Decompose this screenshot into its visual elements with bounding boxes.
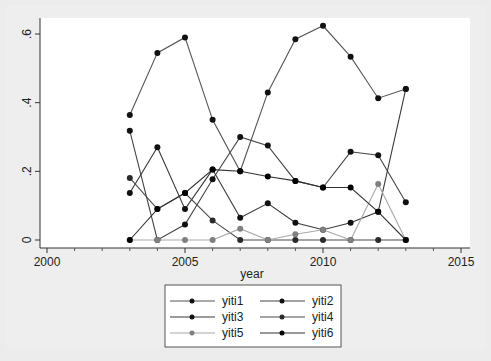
data-point-yiti6 xyxy=(375,209,381,215)
y-tick-label: .6 xyxy=(20,29,34,39)
y-tick-label: .2 xyxy=(20,166,34,176)
plot-area xyxy=(40,18,470,248)
data-point-yiti5 xyxy=(154,237,160,243)
legend-label: yiti2 xyxy=(312,294,334,308)
data-point-yiti5 xyxy=(348,237,354,243)
data-point-yiti5 xyxy=(375,181,381,187)
legend-label: yiti4 xyxy=(312,310,334,324)
data-point-yiti2 xyxy=(403,199,409,205)
data-point-yiti5 xyxy=(237,226,243,232)
data-point-yiti1 xyxy=(210,117,216,123)
data-point-yiti5 xyxy=(210,237,216,243)
data-point-yiti4 xyxy=(237,237,243,243)
data-point-yiti4 xyxy=(292,237,298,243)
data-point-yiti3 xyxy=(292,220,298,226)
data-point-yiti4 xyxy=(320,237,326,243)
legend-marker-icon xyxy=(190,315,195,320)
data-point-yiti5 xyxy=(265,237,271,243)
data-point-yiti1 xyxy=(182,34,188,40)
data-point-yiti1 xyxy=(127,112,133,118)
data-point-yiti3 xyxy=(154,144,160,150)
data-point-yiti6 xyxy=(265,174,271,180)
data-point-yiti6 xyxy=(182,190,188,196)
legend-marker-icon xyxy=(280,315,285,320)
data-point-yiti1 xyxy=(348,54,354,60)
data-point-yiti2 xyxy=(127,128,133,134)
data-point-yiti6 xyxy=(237,168,243,174)
legend-label: yiti6 xyxy=(312,326,334,340)
data-point-yiti4 xyxy=(210,217,216,223)
legend-marker-icon xyxy=(190,331,195,336)
y-tick-label: 0 xyxy=(20,236,34,243)
data-point-yiti3 xyxy=(403,86,409,92)
data-point-yiti4 xyxy=(127,175,133,181)
data-point-yiti3 xyxy=(265,200,271,206)
data-point-yiti2 xyxy=(237,134,243,140)
legend-marker-icon xyxy=(280,331,285,336)
chart-canvas: 0.2.4.62000200520102015 year yiti1yiti2y… xyxy=(0,0,491,361)
chart: 0.2.4.62000200520102015 year yiti1yiti2y… xyxy=(0,0,491,361)
data-point-yiti6 xyxy=(292,178,298,184)
data-point-yiti6 xyxy=(348,185,354,191)
data-point-yiti1 xyxy=(320,23,326,29)
data-point-yiti6 xyxy=(210,167,216,173)
legend-label: yiti3 xyxy=(222,310,244,324)
data-point-yiti6 xyxy=(127,237,133,243)
data-point-yiti2 xyxy=(210,176,216,182)
x-tick-label: 2015 xyxy=(448,255,475,269)
x-tick-label: 2000 xyxy=(34,255,61,269)
data-point-yiti3 xyxy=(237,215,243,221)
data-point-yiti2 xyxy=(265,143,271,149)
data-point-yiti2 xyxy=(348,149,354,155)
data-point-yiti1 xyxy=(375,95,381,101)
x-tick-label: 2005 xyxy=(172,255,199,269)
data-point-yiti3 xyxy=(182,206,188,212)
data-point-yiti3 xyxy=(127,190,133,196)
data-point-yiti5 xyxy=(182,237,188,243)
data-point-yiti6 xyxy=(320,185,326,191)
data-point-yiti4 xyxy=(375,237,381,243)
x-axis-title: year xyxy=(240,267,263,281)
data-point-yiti5 xyxy=(292,231,298,237)
legend-marker-icon xyxy=(280,299,285,304)
data-point-yiti3 xyxy=(348,220,354,226)
legend-marker-icon xyxy=(190,299,195,304)
data-point-yiti1 xyxy=(292,36,298,42)
legend-label: yiti1 xyxy=(222,294,244,308)
data-point-yiti2 xyxy=(182,222,188,228)
data-point-yiti1 xyxy=(265,89,271,95)
data-point-yiti1 xyxy=(154,50,160,56)
legend-label: yiti5 xyxy=(222,326,244,340)
data-point-yiti6 xyxy=(403,237,409,243)
x-tick-label: 2010 xyxy=(310,255,337,269)
y-tick-label: .4 xyxy=(20,97,34,107)
data-point-yiti2 xyxy=(375,152,381,158)
legend: yiti1yiti2yiti3yiti4yiti5yiti6 xyxy=(165,285,341,347)
data-point-yiti6 xyxy=(154,206,160,212)
data-point-yiti5 xyxy=(320,227,326,233)
